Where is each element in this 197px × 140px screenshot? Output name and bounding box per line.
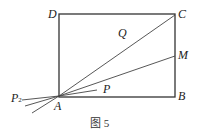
label-q: Q: [118, 27, 127, 39]
label-p2-subscript: 2: [18, 96, 22, 104]
label-c: C: [178, 8, 186, 20]
segment-ap: [59, 90, 97, 96]
segment-ac: [59, 15, 175, 96]
figure-caption: 图 5: [90, 118, 109, 129]
label-b: B: [178, 90, 185, 102]
label-p2: P2: [11, 92, 22, 104]
label-p: P: [103, 83, 110, 95]
segment-am: [59, 56, 175, 96]
label-m: M: [178, 49, 188, 61]
label-d: D: [48, 8, 57, 20]
label-a: A: [54, 100, 61, 112]
